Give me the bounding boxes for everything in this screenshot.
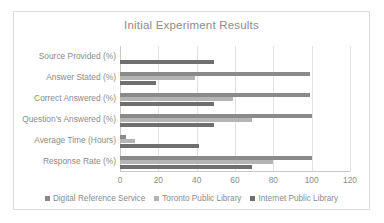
bar bbox=[120, 139, 135, 143]
bar-group bbox=[120, 67, 350, 88]
bar bbox=[120, 93, 310, 97]
bar bbox=[120, 135, 126, 139]
legend-label: Toronto Public Library bbox=[162, 194, 241, 203]
bar bbox=[120, 165, 252, 169]
x-tick-label: 60 bbox=[230, 175, 239, 185]
bar bbox=[120, 114, 312, 118]
category-label: Answer Stated (%) bbox=[46, 67, 116, 88]
bar bbox=[120, 144, 199, 148]
bar bbox=[120, 72, 310, 76]
plot-area bbox=[120, 46, 350, 172]
bar bbox=[120, 118, 252, 122]
y-axis-category-labels: Source Provided (%)Answer Stated (%)Corr… bbox=[14, 46, 116, 172]
bar-group bbox=[120, 88, 350, 109]
category-label: Correct Answered (%) bbox=[34, 88, 116, 109]
x-tick-label: 120 bbox=[343, 175, 357, 185]
gridline bbox=[350, 46, 351, 172]
bar bbox=[120, 102, 214, 106]
legend-swatch-icon bbox=[45, 196, 50, 201]
legend-label: Internet Public Library bbox=[258, 194, 338, 203]
bar bbox=[120, 156, 312, 160]
category-label: Source Provided (%) bbox=[39, 46, 116, 67]
legend-label: Digital Reference Service bbox=[53, 194, 145, 203]
legend-swatch-icon bbox=[154, 196, 159, 201]
bar bbox=[120, 76, 195, 80]
category-label: Response Rate (%) bbox=[43, 151, 116, 172]
x-tick-label: 20 bbox=[154, 175, 163, 185]
legend-item[interactable]: Toronto Public Library bbox=[154, 194, 241, 203]
bar-group bbox=[120, 46, 350, 67]
x-tick-label: 80 bbox=[269, 175, 278, 185]
x-axis-tick-labels: 020406080100120 bbox=[120, 175, 350, 187]
x-axis-line bbox=[120, 171, 350, 172]
legend-swatch-icon bbox=[250, 196, 255, 201]
bar-group bbox=[120, 130, 350, 151]
chart-title: Initial Experiment Results bbox=[14, 19, 369, 31]
x-tick-label: 100 bbox=[305, 175, 319, 185]
x-tick-label: 40 bbox=[192, 175, 201, 185]
x-tick-label: 0 bbox=[118, 175, 123, 185]
category-label: Average Time (Hours) bbox=[34, 130, 116, 151]
legend-item[interactable]: Digital Reference Service bbox=[45, 194, 145, 203]
bar bbox=[120, 81, 156, 85]
bar bbox=[120, 123, 214, 127]
bar-group bbox=[120, 151, 350, 172]
bar bbox=[120, 160, 273, 164]
bar bbox=[120, 97, 233, 101]
category-label: Question’s Answered (%) bbox=[22, 109, 116, 130]
chart-legend: Digital Reference ServiceToronto Public … bbox=[14, 194, 369, 203]
bar bbox=[120, 60, 214, 64]
bar-group bbox=[120, 109, 350, 130]
legend-item[interactable]: Internet Public Library bbox=[250, 194, 338, 203]
chart-container: Initial Experiment Results Source Provid… bbox=[13, 11, 370, 210]
